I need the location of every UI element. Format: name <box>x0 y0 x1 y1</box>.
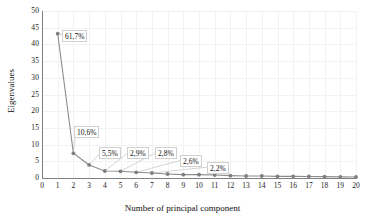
data-point-marker <box>244 174 248 178</box>
data-point-marker <box>354 175 358 179</box>
data-point-marker <box>119 169 123 173</box>
data-point-marker <box>323 175 327 179</box>
data-point-marker <box>229 174 233 178</box>
data-point-marker <box>260 174 264 178</box>
data-point-marker <box>307 175 311 179</box>
data-point-marker <box>56 32 60 36</box>
label-leader-line <box>152 167 209 173</box>
data-point-marker <box>150 171 154 175</box>
data-point-marker <box>197 173 201 177</box>
data-point-marker <box>338 175 342 179</box>
data-label: 10,6% <box>74 126 99 138</box>
y-axis-title: Eigenvalues <box>6 51 16 131</box>
data-point-marker <box>87 163 91 167</box>
data-label: 2,6% <box>180 155 202 167</box>
series-graphics <box>0 0 365 223</box>
data-label: 2,9% <box>127 147 149 159</box>
data-label: 5,5% <box>99 147 121 159</box>
data-point-marker <box>134 170 138 174</box>
data-point-marker <box>166 172 170 176</box>
data-point-marker <box>72 151 76 155</box>
data-label: 61,7% <box>62 30 87 42</box>
data-point-marker <box>181 173 185 177</box>
data-point-marker <box>291 174 295 178</box>
data-point-marker <box>103 169 107 173</box>
data-point-marker <box>276 174 280 178</box>
scree-plot-chart: 05101520253035404550 0123456789101112131… <box>0 0 365 223</box>
x-axis-title: Number of principal component <box>0 203 365 213</box>
data-label: 2,2% <box>207 162 229 174</box>
data-label: 2,8% <box>155 147 177 159</box>
